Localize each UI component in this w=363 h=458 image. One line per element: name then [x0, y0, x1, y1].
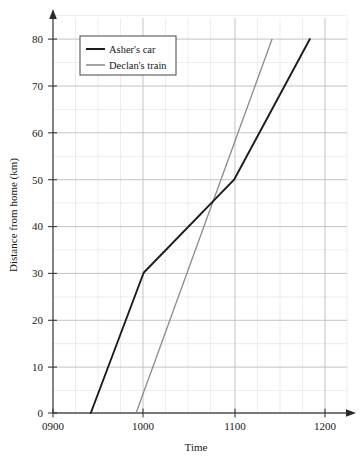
y-tick-label-30: 30 [32, 267, 44, 279]
legend: Asher's car Declan's train [80, 36, 176, 75]
y-tick-label-40: 40 [32, 220, 44, 232]
y-axis-arrow-icon [49, 9, 57, 19]
x-tick-label-1100: 1100 [224, 420, 246, 432]
x-axis-arrow-icon [346, 409, 356, 417]
x-tick-label-1200: 1200 [314, 420, 337, 432]
y-tick-label-50: 50 [32, 174, 44, 186]
y-tick-label-0: 0 [38, 407, 44, 419]
chart-canvas: 80 70 60 50 40 30 20 10 0 0900 1000 1100… [0, 0, 363, 458]
x-tick-label-1000: 1000 [132, 420, 155, 432]
legend-label-ashers-car: Asher's car [109, 44, 156, 55]
y-tick-label-60: 60 [32, 127, 44, 139]
distance-time-chart: 80 70 60 50 40 30 20 10 0 0900 1000 1100… [0, 0, 363, 458]
legend-label-declans-train: Declan's train [109, 60, 167, 71]
y-tick-label-80: 80 [32, 33, 44, 45]
x-tick-label-0900: 0900 [42, 420, 65, 432]
x-axis-title: Time [185, 441, 208, 453]
y-axis-title: Distance from home (km) [7, 158, 20, 272]
y-tick-label-70: 70 [32, 80, 44, 92]
y-tick-label-20: 20 [32, 314, 44, 326]
y-tick-label-10: 10 [32, 361, 44, 373]
